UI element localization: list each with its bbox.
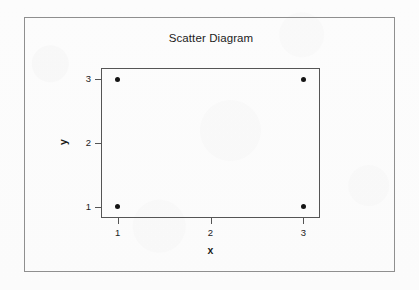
data-point [301, 77, 306, 82]
x-tick-mark [211, 218, 212, 224]
y-tick-label: 1 [80, 202, 91, 212]
chart-title: Scatter Diagram [101, 32, 321, 44]
y-tick-mark [95, 143, 101, 144]
scatter-diagram-figure: Scatter Diagram x y 123123 [0, 0, 419, 290]
data-point [115, 77, 120, 82]
y-tick-mark [95, 207, 101, 208]
x-tick-mark [303, 218, 304, 224]
x-tick-label: 3 [296, 228, 310, 238]
data-point [115, 204, 120, 209]
y-tick-label: 3 [80, 74, 91, 84]
data-point [301, 204, 306, 209]
x-tick-label: 2 [204, 228, 218, 238]
y-tick-mark [95, 79, 101, 80]
x-tick-label: 1 [111, 228, 125, 238]
y-axis-title: y [57, 131, 69, 153]
x-tick-mark [118, 218, 119, 224]
data-points-layer [101, 68, 320, 218]
y-tick-label: 2 [80, 138, 91, 148]
x-axis-title: x [101, 244, 320, 256]
